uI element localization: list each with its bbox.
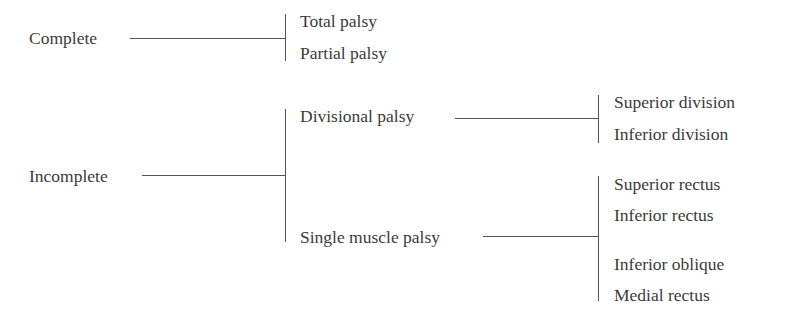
node-partial-palsy: Partial palsy	[300, 43, 387, 63]
bracket-divisional	[598, 95, 599, 143]
connector-single-muscle	[483, 236, 598, 237]
node-total-palsy: Total palsy	[300, 11, 377, 31]
connector-complete	[130, 38, 285, 39]
node-inferior-oblique: Inferior oblique	[614, 254, 724, 274]
bracket-incomplete	[285, 109, 286, 242]
node-superior-division: Superior division	[614, 92, 735, 112]
bracket-complete	[285, 14, 286, 61]
node-inferior-division: Inferior division	[614, 124, 728, 144]
connector-divisional	[455, 118, 598, 119]
connector-incomplete	[142, 175, 285, 176]
node-complete: Complete	[29, 28, 97, 48]
node-superior-rectus: Superior rectus	[614, 174, 720, 194]
node-medial-rectus: Medial rectus	[614, 285, 710, 305]
node-inferior-rectus: Inferior rectus	[614, 205, 714, 225]
node-single-muscle-palsy: Single muscle palsy	[300, 227, 440, 247]
node-divisional-palsy: Divisional palsy	[300, 106, 414, 126]
palsy-classification-diagram: Complete Total palsy Partial palsy Incom…	[0, 0, 796, 333]
node-incomplete: Incomplete	[29, 166, 108, 186]
bracket-single-muscle	[598, 176, 599, 301]
